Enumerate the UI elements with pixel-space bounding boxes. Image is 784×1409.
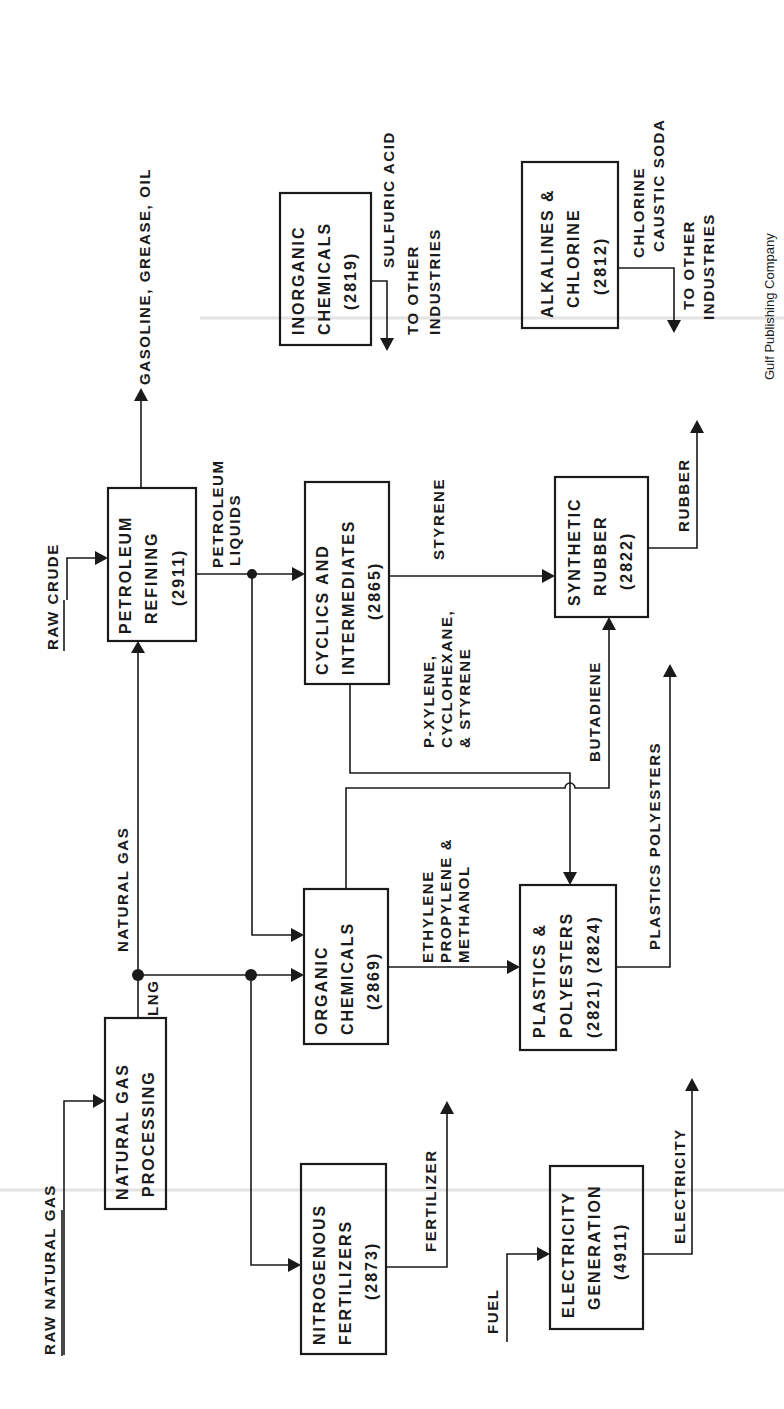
svg-text:CHEMICALS: CHEMICALS <box>339 922 356 1035</box>
svg-text:LNG: LNG <box>144 980 161 1016</box>
node-nitrogenous-fertilizers: NITROGENOUS FERTILIZERS (2873) <box>301 1164 386 1354</box>
svg-text:(2911): (2911) <box>170 549 187 606</box>
svg-text:RAW NATURAL GAS: RAW NATURAL GAS <box>41 1184 58 1355</box>
svg-text:TO OTHER: TO OTHER <box>404 245 421 335</box>
node-organic-chemicals: ORGANIC CHEMICALS (2869) <box>304 889 388 1044</box>
svg-text:(2869): (2869) <box>365 952 382 1010</box>
svg-text:PLASTICS POLYESTERS: PLASTICS POLYESTERS <box>646 742 663 950</box>
svg-text:GASOLINE, GREASE, OIL: GASOLINE, GREASE, OIL <box>136 168 153 385</box>
flow-chlorine-caustic: CHLORINE CAUSTIC SODA TO OTHER INDUSTRIE… <box>618 119 717 333</box>
industry-flow-diagram: NATURAL GAS PROCESSING NITROGENOUS FERTI… <box>0 0 784 1409</box>
svg-text:PROPYLENE &: PROPYLENE & <box>437 838 454 963</box>
svg-text:LIQUIDS: LIQUIDS <box>226 494 243 566</box>
svg-text:ALKALINES &: ALKALINES & <box>539 188 556 318</box>
node-synthetic-rubber: SYNTHETIC RUBBER (2822) <box>555 477 648 617</box>
flow-plastics-out: PLASTICS POLYESTERS <box>616 664 677 967</box>
flow-ethylene: ETHYLENE PROPYLENE & METHANOL <box>388 838 520 974</box>
flow-lng: LNG <box>132 969 161 1018</box>
svg-text:NATURAL GAS: NATURAL GAS <box>114 827 131 952</box>
svg-text:P-XYLENE,: P-XYLENE, <box>420 654 437 748</box>
svg-text:(4911): (4911) <box>612 1223 629 1280</box>
flow-lng-to-organic <box>138 968 304 982</box>
flow-rubber-out: RUBBER <box>648 420 704 548</box>
flow-fertilizer-out: FERTILIZER <box>386 1101 454 1267</box>
svg-text:INDUSTRIES: INDUSTRIES <box>700 213 717 320</box>
flow-styrene: STYRENE <box>389 478 555 583</box>
svg-text:INORGANIC: INORGANIC <box>290 225 307 335</box>
svg-text:INDUSTRIES: INDUSTRIES <box>426 228 443 335</box>
svg-text:STYRENE: STYRENE <box>430 478 447 560</box>
svg-text:CHLORINE: CHLORINE <box>630 167 647 258</box>
svg-text:POLYESTERS: POLYESTERS <box>558 912 575 1038</box>
svg-text:CHLORINE: CHLORINE <box>565 208 582 308</box>
node-petroleum-refining: PETROLEUM REFINING (2911) <box>108 488 196 641</box>
svg-text:ELECTRICITY: ELECTRICITY <box>671 1128 688 1244</box>
flow-pxylene: P-XYLENE, CYCLOHEXANE, & STYRENE <box>350 610 577 885</box>
svg-text:(2865): (2865) <box>366 562 383 620</box>
svg-text:& STYRENE: & STYRENE <box>456 648 473 748</box>
svg-text:RAW CRUDE: RAW CRUDE <box>44 543 61 650</box>
svg-text:BUTADIENE: BUTADIENE <box>586 661 603 762</box>
svg-text:PETROLEUM: PETROLEUM <box>209 459 226 568</box>
flow-raw-crude: RAW CRUDE <box>44 543 108 651</box>
svg-text:CAUSTIC SODA: CAUSTIC SODA <box>650 119 667 252</box>
svg-text:(2812): (2812) <box>592 237 609 295</box>
svg-text:NATURAL GAS: NATURAL GAS <box>114 1063 131 1200</box>
node-alkalines-chlorine: ALKALINES & CHLORINE (2812) <box>522 162 618 328</box>
svg-text:METHANOL: METHANOL <box>455 865 472 963</box>
svg-text:GENERATION: GENERATION <box>586 1185 603 1310</box>
flow-to-fertilizers <box>251 975 301 1272</box>
svg-text:ORGANIC: ORGANIC <box>313 945 330 1035</box>
svg-text:(2821) (2824): (2821) (2824) <box>585 915 602 1038</box>
flow-petroleum-liquids: PETROLEUM LIQUIDS <box>196 459 305 581</box>
svg-text:SULFURIC ACID: SULFURIC ACID <box>380 131 397 268</box>
svg-text:FUEL: FUEL <box>484 1288 501 1334</box>
svg-text:PLASTICS &: PLASTICS & <box>531 923 548 1038</box>
flow-gasoline: GASOLINE, GREASE, OIL <box>134 168 153 488</box>
svg-text:PETROLEUM: PETROLEUM <box>117 516 134 634</box>
svg-text:RUBBER: RUBBER <box>592 516 609 596</box>
svg-text:ELECTRICITY: ELECTRICITY <box>560 1191 577 1318</box>
svg-text:NITROGENOUS: NITROGENOUS <box>311 1204 328 1345</box>
node-inorganic-chemicals: INORGANIC CHEMICALS (2819) <box>280 193 371 345</box>
svg-text:TO OTHER: TO OTHER <box>680 220 697 310</box>
svg-text:FERTILIZERS: FERTILIZERS <box>337 1220 354 1345</box>
flow-fuel: FUEL <box>484 1247 550 1342</box>
svg-text:INTERMEDIATES: INTERMEDIATES <box>340 520 357 675</box>
svg-text:PROCESSING: PROCESSING <box>140 1070 157 1197</box>
flow-liquids-to-organic <box>252 574 304 942</box>
svg-text:(2819): (2819) <box>342 252 359 310</box>
flow-electricity-out: ELECTRICITY <box>643 1078 699 1254</box>
svg-text:CHEMICALS: CHEMICALS <box>316 222 333 335</box>
node-natural-gas-processing: NATURAL GAS PROCESSING <box>105 1018 166 1209</box>
publisher-credit: Gulf Publishing Company <box>762 233 777 380</box>
node-cyclics-intermediates: CYCLICS AND INTERMEDIATES (2865) <box>305 482 389 684</box>
svg-text:CYCLICS AND: CYCLICS AND <box>314 544 331 675</box>
svg-text:SYNTHETIC: SYNTHETIC <box>566 497 583 606</box>
node-plastics-polyesters: PLASTICS & POLYESTERS (2821) (2824) <box>520 885 616 1050</box>
svg-text:ETHYLENE: ETHYLENE <box>419 870 436 963</box>
svg-text:FERTILIZER: FERTILIZER <box>422 1149 439 1252</box>
svg-text:REFINING: REFINING <box>143 532 160 624</box>
svg-text:(2822): (2822) <box>618 532 635 590</box>
flow-raw-natural-gas: RAW NATURAL GAS <box>41 1094 105 1356</box>
svg-text:(2873): (2873) <box>363 1242 380 1300</box>
svg-text:RUBBER: RUBBER <box>675 458 692 532</box>
flow-natural-gas: NATURAL GAS <box>114 641 145 975</box>
flow-butadiene: BUTADIENE <box>346 617 616 889</box>
svg-text:CYCLOHEXANE,: CYCLOHEXANE, <box>438 610 455 748</box>
